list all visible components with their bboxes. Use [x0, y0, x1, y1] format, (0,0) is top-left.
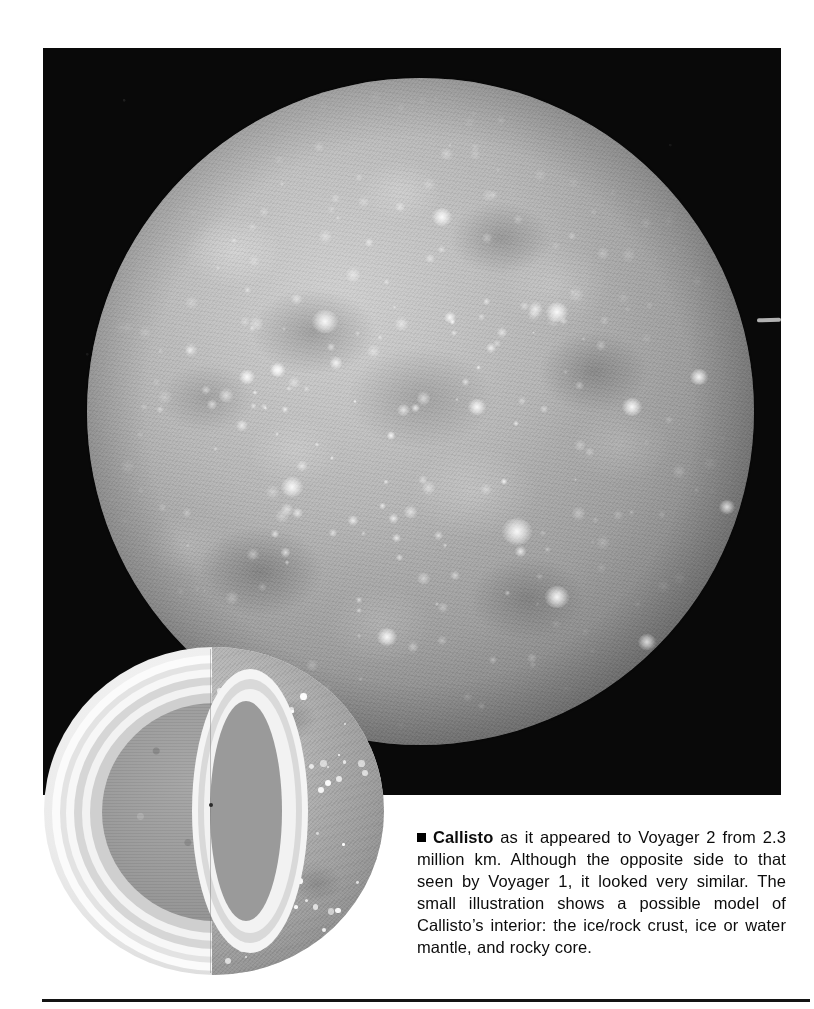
- impact-crater: [358, 196, 369, 207]
- impact-crater: [249, 326, 255, 332]
- impact-crater: [177, 588, 184, 595]
- bright-ray-crater: [502, 518, 532, 545]
- impact-crater: [664, 208, 676, 221]
- impact-crater: [290, 294, 303, 304]
- impact-crater: [547, 313, 560, 328]
- impact-crater: [286, 386, 292, 391]
- impact-crater: [462, 693, 472, 702]
- impact-crater: [274, 156, 284, 164]
- caption-body-text: as it appeared to Voyager 2 from 2.3 mil…: [417, 828, 786, 956]
- impact-crater: [592, 138, 604, 149]
- impact-crater: [365, 238, 373, 247]
- impact-crater: [633, 199, 640, 205]
- impact-crater: [440, 148, 453, 161]
- impact-crater: [404, 505, 417, 520]
- impact-crater: [464, 117, 474, 127]
- bright-ray-crater: [690, 369, 708, 385]
- cutaway-surface-crater: [313, 904, 318, 909]
- impact-crater: [122, 322, 135, 334]
- impact-crater: [396, 721, 406, 730]
- impact-crater: [186, 543, 191, 548]
- impact-crater: [529, 301, 542, 317]
- impact-crater: [544, 547, 551, 552]
- impact-crater: [448, 143, 452, 147]
- bright-ray-crater: [281, 477, 303, 497]
- impact-crater: [462, 378, 469, 386]
- bright-ray-crater: [638, 634, 656, 650]
- impact-crater: [250, 316, 263, 332]
- cutaway-surface-crater: [325, 780, 331, 786]
- impact-crater: [552, 242, 560, 250]
- impact-crater: [369, 91, 381, 102]
- impact-crater: [327, 343, 335, 351]
- impact-crater: [622, 247, 635, 263]
- impact-crater: [418, 96, 426, 105]
- impact-crater: [443, 543, 448, 549]
- impact-crater: [534, 169, 546, 181]
- cutaway-surface-crater: [338, 754, 340, 756]
- impact-crater: [329, 529, 336, 537]
- cutaway-surface-crater: [362, 770, 368, 776]
- impact-crater: [219, 388, 233, 403]
- impact-crater: [437, 246, 447, 254]
- impact-crater: [674, 571, 685, 585]
- impact-crater: [489, 656, 497, 664]
- impact-crater: [261, 404, 267, 409]
- impact-crater: [203, 589, 207, 592]
- impact-crater: [672, 247, 677, 252]
- film-scratch-artifact: [757, 318, 781, 323]
- bright-ray-crater: [622, 398, 642, 416]
- impact-crater: [455, 398, 459, 401]
- cutaway-surface-crater: [320, 760, 326, 766]
- callisto-interior-cutaway: [42, 645, 386, 977]
- impact-crater: [411, 404, 420, 412]
- impact-crater: [450, 571, 460, 581]
- impact-crater: [389, 513, 398, 523]
- impact-crater: [282, 327, 286, 331]
- impact-crater: [425, 254, 435, 264]
- impact-crater: [236, 420, 247, 431]
- impact-crater: [253, 390, 258, 395]
- impact-crater: [138, 488, 144, 493]
- impact-crater: [518, 397, 525, 405]
- impact-crater: [575, 381, 584, 389]
- impact-crater: [483, 189, 494, 202]
- impact-crater: [709, 488, 716, 494]
- impact-crater: [384, 279, 390, 285]
- impact-crater: [207, 399, 217, 410]
- impact-crater: [216, 266, 220, 270]
- impact-crater: [582, 337, 586, 341]
- impact-crater: [355, 331, 359, 335]
- impact-crater: [318, 100, 329, 112]
- impact-crater: [568, 177, 578, 188]
- impact-crater: [562, 684, 571, 694]
- impact-crater: [471, 112, 475, 116]
- impact-crater: [505, 590, 510, 596]
- cut-center-marker: [209, 803, 213, 807]
- impact-crater: [159, 503, 166, 512]
- impact-crater: [330, 356, 343, 370]
- impact-crater: [275, 509, 289, 524]
- cutaway-surface-crater: [328, 908, 334, 914]
- impact-crater: [392, 534, 400, 542]
- impact-crater: [288, 377, 300, 387]
- impact-crater: [600, 316, 609, 326]
- impact-crater: [201, 386, 211, 394]
- impact-crater: [156, 406, 164, 414]
- bright-ray-crater: [546, 302, 568, 322]
- impact-crater: [346, 267, 360, 283]
- impact-crater: [158, 349, 163, 354]
- impact-crater: [591, 540, 594, 544]
- impact-crater: [642, 333, 651, 344]
- impact-crater: [367, 345, 380, 358]
- impact-crater: [280, 182, 284, 186]
- impact-crater: [225, 591, 239, 604]
- impact-crater: [551, 619, 561, 628]
- figure-page: Callisto as it appeared to Voyager 2 fro…: [0, 0, 814, 1009]
- impact-crater: [592, 517, 599, 523]
- impact-crater: [646, 302, 653, 309]
- impact-crater: [266, 485, 279, 498]
- impact-crater: [387, 431, 396, 441]
- impact-crater: [486, 343, 496, 353]
- impact-crater: [610, 190, 615, 196]
